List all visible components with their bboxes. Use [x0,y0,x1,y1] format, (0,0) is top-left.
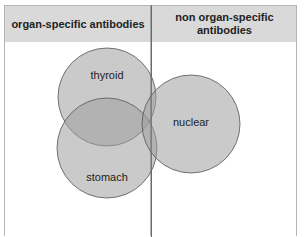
label-stomach: stomach [86,171,128,183]
label-thyroid: thyroid [90,69,123,81]
label-nuclear: nuclear [173,116,209,128]
venn-diagram: thyroid stomach nuclear [0,0,304,237]
circle-stomach [57,98,157,198]
